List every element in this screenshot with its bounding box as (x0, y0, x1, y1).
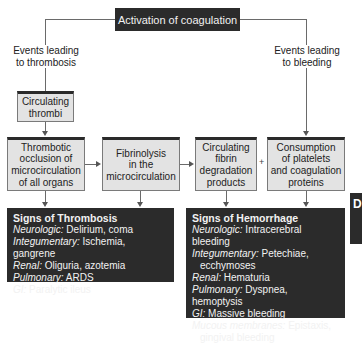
thrombosis-sign-row: GI: Paralytic ileus (13, 284, 168, 296)
sign-text: Paralytic ileus (26, 284, 90, 295)
hemorrhage-sign-continuation: ecchymoses (192, 260, 339, 272)
sign-text: Massive bleeding (205, 308, 285, 319)
sign-text: Hematuria (221, 272, 270, 283)
arrow-to-thrombosis-signs-icon (42, 202, 48, 207)
system-label: Neurologic: (13, 224, 64, 235)
arrow-to-consumption-icon (303, 131, 309, 136)
system-label: Pulmonary: (13, 272, 64, 283)
arrow-to-fdp-icon (189, 161, 194, 167)
activation-label: Activation of coagulation (118, 14, 237, 26)
circulating-thrombi-box: Circulating thrombi (17, 91, 74, 122)
hemorrhage-signs-title: Signs of Hemorrhage (192, 212, 339, 224)
sign-text: Epistaxis, (285, 320, 331, 331)
system-label: Integumentary: (192, 248, 259, 259)
connector-top-right (240, 19, 307, 20)
fibrinolysis-box: Fibrinolysis in the microcirculation (102, 137, 180, 191)
system-label: GI: (192, 308, 205, 319)
system-label: Pulmonary: (192, 284, 243, 295)
thrombotic-occlusion-box: Thrombotic occlusion of microcirculation… (7, 137, 85, 191)
hemorrhage-sign-row: Renal: Hematuria (192, 272, 339, 284)
sign-text: Delirium, coma (64, 224, 133, 235)
thrombosis-sign-row: Neurologic: Delirium, coma (13, 224, 168, 236)
plus-sign: + (259, 157, 264, 167)
sign-text: Petechiae, (259, 248, 309, 259)
sign-text: Oliguria, azotemia (42, 260, 125, 271)
hemorrhage-sign-row: GI: Massive bleeding (192, 308, 339, 320)
arrow-to-occlusion-icon (42, 131, 48, 136)
hemorrhage-sign-row: Integumentary: Petechiae, (192, 248, 339, 260)
bleeding-branch-label: Events leading to bleeding (266, 45, 348, 68)
thrombosis-sign-row: Integumentary: Ischemia, gangrene (13, 236, 168, 260)
arrow-fdp-down-icon (223, 202, 229, 207)
activation-of-coagulation-box: Activation of coagulation (115, 8, 240, 31)
fibrin-degradation-products-box: Circulating fibrin degradation products (195, 137, 257, 191)
system-label: GI: (13, 284, 26, 295)
system-label: Mucous membranes: (192, 320, 285, 331)
hemorrhage-sign-row: Pulmonary: Dyspnea, hemoptysis (192, 284, 339, 308)
connector-top-left (45, 19, 115, 20)
arrow-to-fibrinolysis-icon (96, 161, 101, 167)
hemorrhage-sign-row: Mucous membranes: Epistaxis, (192, 320, 339, 332)
system-label: Renal: (192, 272, 221, 283)
section-tab-d: D (350, 193, 362, 244)
consumption-box: Consumption of platelets and coagulation… (267, 137, 345, 191)
system-label: Integumentary: (13, 236, 80, 247)
system-label: Neurologic: (192, 224, 243, 235)
sign-text: ARDS (64, 272, 94, 283)
arrow-fibrinolysis-down-icon (137, 202, 143, 207)
hemorrhage-sign-continuation: gingival bleeding (192, 332, 339, 344)
hemorrhage-sign-row: Neurologic: Intracerebral bleeding (192, 224, 339, 248)
connector-right-vertical (306, 19, 307, 132)
thrombosis-signs-title: Signs of Thrombosis (13, 212, 168, 224)
arrow-consumption-down-icon (303, 202, 309, 207)
thrombosis-branch-label: Events leading to thrombosis (3, 45, 89, 68)
signs-of-hemorrhage-box: Signs of Hemorrhage Neurologic: Intracer… (186, 208, 345, 318)
thrombosis-sign-row: Pulmonary: ARDS (13, 272, 168, 284)
signs-of-thrombosis-box: Signs of Thrombosis Neurologic: Delirium… (7, 208, 174, 282)
thrombosis-sign-row: Renal: Oliguria, azotemia (13, 260, 168, 272)
system-label: Renal: (13, 260, 42, 271)
